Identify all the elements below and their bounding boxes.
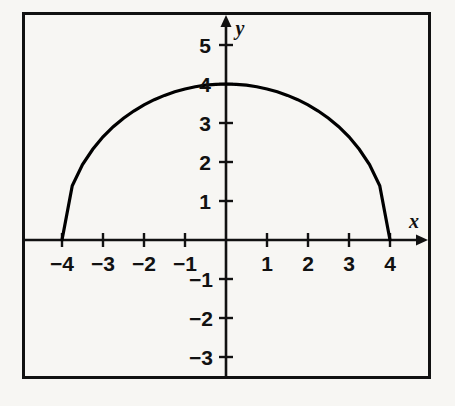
x-tick-label-1: 1 <box>261 252 273 275</box>
y-tick-label-2: 2 <box>199 151 211 174</box>
y-tick-label--3: −3 <box>189 346 213 369</box>
y-tick-label-3: 3 <box>199 112 211 135</box>
x-tick-label--2: −2 <box>132 252 156 275</box>
x-tick-label-3: 3 <box>343 252 355 275</box>
x-tick-label-4: 4 <box>384 252 396 275</box>
y-tick-label-4: 4 <box>199 73 211 96</box>
graph-figure: −4 −3 −2 −1 1 2 3 4 5 4 3 2 1 −1 −2 −3 x… <box>0 0 455 406</box>
x-tick-label--4: −4 <box>50 252 74 275</box>
y-axis-label: y <box>234 17 245 40</box>
x-tick-label--3: −3 <box>91 252 115 275</box>
y-axis-arrowhead <box>221 15 232 27</box>
y-tick-label--2: −2 <box>189 307 213 330</box>
y-tick-label-1: 1 <box>199 190 211 213</box>
cartesian-plot: −4 −3 −2 −1 1 2 3 4 5 4 3 2 1 −1 −2 −3 x… <box>0 0 455 406</box>
y-tick-label-5: 5 <box>199 34 211 57</box>
y-tick-label--1: −1 <box>189 268 213 291</box>
x-tick-label-2: 2 <box>302 252 314 275</box>
x-axis-label: x <box>408 210 419 232</box>
x-axis-arrowhead <box>416 235 428 246</box>
